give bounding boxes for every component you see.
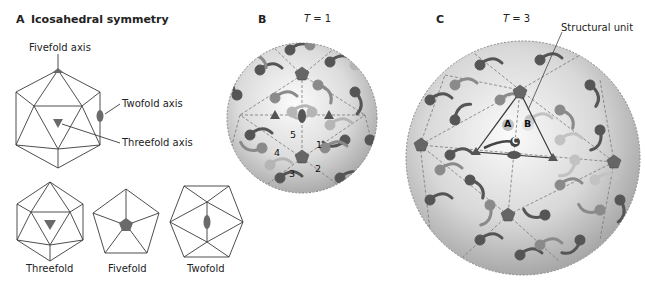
threefold-leader-line [62, 124, 120, 143]
twofold-symbol-icon [97, 110, 104, 122]
fivefold-view-symbol-icon [119, 218, 133, 231]
twofold-symbol-icon [507, 151, 521, 159]
capsid-sphere-t1 [227, 39, 377, 193]
fivefold-symbol-icon [52, 68, 64, 73]
subunit-number-2: 2 [315, 163, 321, 174]
subunit-number-3: 3 [289, 168, 295, 179]
subunit-number-5: 5 [290, 129, 296, 140]
twofold-view-symbol-icon [204, 215, 211, 229]
icosahedron-main [16, 54, 120, 168]
capsid-sphere-t3 [406, 32, 640, 275]
subunit-number-4: 4 [274, 147, 280, 158]
twofold-symbol-icon [298, 109, 306, 123]
subunit-label-c: C [512, 137, 518, 146]
threefold-view-symbol-icon [44, 220, 56, 230]
subunit-label-a: A [504, 118, 511, 129]
subunit-label-b: B [524, 118, 531, 129]
twofold-leader-line [105, 104, 120, 114]
threefold-symbol-icon [53, 119, 63, 128]
diagram-canvas [0, 0, 645, 284]
subunit-number-1: 1 [316, 139, 322, 150]
